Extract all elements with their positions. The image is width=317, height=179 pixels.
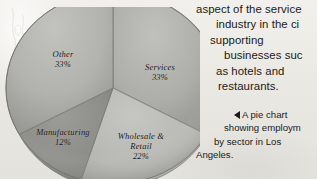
text-column: aspect of the service industry in the ci… (196, 0, 317, 179)
caption-line-4: Angeles. (196, 148, 317, 161)
caption-line-3: by sector in Los (196, 135, 317, 148)
pie-label-services-value: 33% (152, 72, 168, 82)
pie-label-other-name: Other (53, 49, 74, 59)
pie-label-other-value: 33% (55, 59, 71, 69)
caption-line-1-text: A pie chart (242, 109, 287, 120)
caption-line-1: A pie chart (196, 108, 317, 121)
figure-caption: A pie chart showing employm by sector in… (196, 108, 317, 162)
left-triangle-icon (234, 111, 240, 119)
pie-label-services: Services 33% (129, 62, 191, 82)
pie-label-manufacturing: Manufacturing 12% (21, 127, 105, 147)
pie-label-manufacturing-name: Manufacturing (36, 127, 90, 137)
body-line-3: supporting (196, 33, 317, 48)
body-line-1: aspect of the service (196, 2, 317, 17)
pie-label-wholesale-retail: Wholesale & Retail 22% (107, 131, 175, 161)
body-line-5: as hotels and (196, 64, 317, 79)
pie-graphic: Other 33% Services 33% Manufacturing 12%… (3, 7, 200, 179)
pie-label-other: Other 33% (33, 49, 93, 69)
body-line-6: restaurants. (196, 79, 317, 94)
pie-chart: Other 33% Services 33% Manufacturing 12%… (0, 0, 205, 179)
body-line-4: businesses suc (196, 48, 317, 63)
pie-label-wholesale-retail-value: 22% (133, 151, 149, 161)
figure-page: Other 33% Services 33% Manufacturing 12%… (0, 0, 317, 179)
pie-label-wholesale-retail-name-2: Retail (130, 141, 152, 151)
caption-line-2: showing employm (196, 121, 317, 134)
body-line-2: industry in the ci (196, 17, 317, 32)
pie-label-wholesale-retail-name-1: Wholesale & (118, 131, 164, 141)
pie-label-manufacturing-value: 12% (55, 137, 71, 147)
pie-label-services-name: Services (145, 62, 175, 72)
body-copy: aspect of the service industry in the ci… (196, 0, 317, 94)
